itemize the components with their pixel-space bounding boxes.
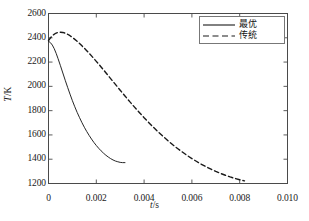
x-axis-unit: /s bbox=[153, 200, 159, 210]
y-tick-label: 2400 bbox=[2, 33, 46, 43]
y-axis-title: T/K bbox=[3, 74, 13, 114]
y-tick-label: 1400 bbox=[2, 154, 46, 164]
legend: 最优 传统 bbox=[199, 16, 285, 44]
y-tick-label: 1600 bbox=[2, 130, 46, 140]
y-tick-label: 2600 bbox=[2, 9, 46, 19]
legend-line-dashed-icon bbox=[202, 31, 236, 41]
legend-line-solid-icon bbox=[202, 20, 236, 30]
legend-item-traditional: 传统 bbox=[202, 30, 281, 41]
y-axis-unit: /K bbox=[3, 87, 13, 97]
legend-label-traditional: 传统 bbox=[236, 31, 257, 40]
y-tick-label: 2200 bbox=[2, 57, 46, 67]
legend-label-optimal: 最优 bbox=[236, 20, 257, 29]
legend-item-optimal: 最优 bbox=[202, 19, 281, 30]
figure-canvas: 12001400160018002000220024002600 00.0020… bbox=[0, 0, 309, 221]
x-axis-title: t/s bbox=[0, 200, 309, 210]
y-axis-variable: T bbox=[3, 96, 13, 101]
